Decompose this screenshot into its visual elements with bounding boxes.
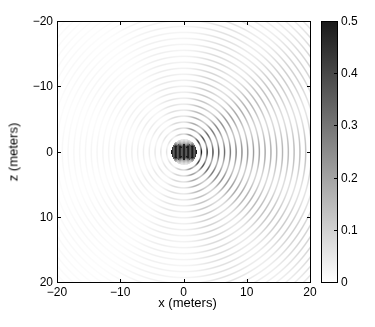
y-tick-right [307, 152, 311, 153]
x-tick-top [247, 21, 248, 25]
colorbar-tick-label: 0 [341, 276, 348, 288]
colorbar-tick-label: 0.3 [341, 119, 358, 131]
x-tick [184, 279, 185, 283]
y-tick-label: −20 [0, 15, 53, 27]
x-tick-top [184, 21, 185, 25]
colorbar-gradient [322, 22, 337, 282]
y-tick [57, 86, 61, 87]
y-axis-label: z (meters) [6, 123, 21, 182]
y-tick-right [307, 217, 311, 218]
colorbar-tick [334, 230, 338, 231]
x-tick-top [120, 21, 121, 25]
y-tick-label: −10 [0, 80, 53, 92]
y-tick-label: 20 [0, 276, 53, 288]
y-tick [57, 217, 61, 218]
y-tick [57, 152, 61, 153]
colorbar-tick-label: 0.2 [341, 172, 358, 184]
x-tick [120, 279, 121, 283]
y-tick-label: 10 [0, 211, 53, 223]
colorbar-tick [334, 282, 338, 283]
y-tick-right [307, 21, 311, 22]
colorbar-tick-label: 0.1 [341, 224, 358, 236]
colorbar-tick-label: 0.4 [341, 67, 358, 79]
wave-field-heatmap [58, 22, 310, 282]
colorbar-tick [334, 21, 338, 22]
colorbar-tick [334, 73, 338, 74]
colorbar-tick-label: 0.5 [341, 15, 358, 27]
heatmap-figure: −20−1001020−20−100102000.10.20.30.40.5 x… [0, 0, 375, 327]
y-tick [57, 21, 61, 22]
plot-area [57, 21, 311, 283]
x-axis-label: x (meters) [0, 295, 375, 310]
y-tick [57, 282, 61, 283]
x-tick [247, 279, 248, 283]
y-tick-right [307, 282, 311, 283]
colorbar [321, 21, 338, 283]
colorbar-tick [334, 125, 338, 126]
y-tick-right [307, 86, 311, 87]
colorbar-tick [334, 178, 338, 179]
